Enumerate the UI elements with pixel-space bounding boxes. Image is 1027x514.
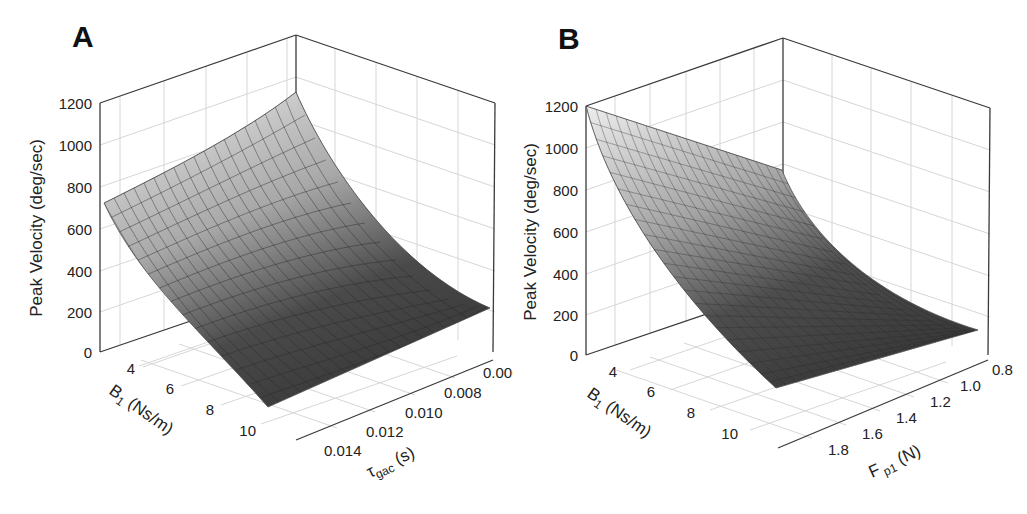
panel-a: A: [0, 0, 513, 514]
svg-text:8: 8: [687, 404, 695, 421]
z-ticks-a: 1200 1000 800 600 400 200 0: [59, 95, 92, 361]
z-axis-title-b: Peak Velocity (deg/sec): [521, 143, 540, 321]
svg-text:1.4: 1.4: [896, 409, 917, 426]
svg-text:8: 8: [206, 401, 214, 418]
svg-text:1.6: 1.6: [862, 425, 883, 442]
svg-text:0: 0: [570, 347, 578, 364]
svg-text:6: 6: [166, 380, 174, 397]
svg-text:0.012: 0.012: [366, 423, 404, 440]
x-axis-title-b: B1 (Ns/m): [582, 384, 655, 444]
svg-text:0.010: 0.010: [405, 404, 443, 421]
svg-text:10: 10: [721, 425, 738, 442]
svg-text:0.014: 0.014: [324, 442, 362, 459]
svg-text:400: 400: [553, 266, 578, 283]
svg-text:600: 600: [67, 221, 92, 238]
svg-text:1200: 1200: [545, 98, 578, 115]
svg-text:1200: 1200: [59, 95, 92, 112]
z-ticks-b: 1200 1000 800 600 400 200 0: [545, 98, 578, 364]
svg-text:800: 800: [553, 182, 578, 199]
y-axis-title-a: τgac (s): [364, 443, 419, 484]
surface-plot-a: 1200 1000 800 600 400 200 0 Peak Velocit…: [0, 0, 513, 514]
panel-b: B: [500, 0, 1013, 514]
svg-text:200: 200: [553, 307, 578, 324]
y-ticks-a: 0.014 0.012 0.010 0.008 0.006: [324, 364, 513, 459]
svg-text:4: 4: [609, 363, 617, 380]
svg-text:1.8: 1.8: [828, 441, 849, 458]
surface-plot-b: 1200 1000 800 600 400 200 0 Peak Velocit…: [500, 0, 1027, 514]
svg-text:200: 200: [67, 304, 92, 321]
z-axis-title-a: Peak Velocity (deg/sec): [27, 139, 46, 317]
svg-text:1000: 1000: [545, 140, 578, 157]
y-axis-title-b: Fp1 (N): [866, 441, 925, 484]
svg-text:1.0: 1.0: [960, 377, 981, 394]
svg-text:400: 400: [67, 263, 92, 280]
svg-text:10: 10: [239, 422, 256, 439]
y-ticks-b: 1.8 1.6 1.4 1.2 1.0 0.8: [828, 361, 1013, 458]
svg-text:1.2: 1.2: [930, 393, 951, 410]
surface-b: [586, 106, 978, 388]
svg-text:6: 6: [647, 383, 655, 400]
svg-text:800: 800: [67, 179, 92, 196]
svg-text:0: 0: [84, 344, 92, 361]
svg-text:1000: 1000: [59, 137, 92, 154]
svg-text:0.8: 0.8: [992, 361, 1013, 378]
svg-text:4: 4: [127, 360, 135, 377]
svg-text:0.008: 0.008: [444, 384, 482, 401]
svg-text:600: 600: [553, 224, 578, 241]
